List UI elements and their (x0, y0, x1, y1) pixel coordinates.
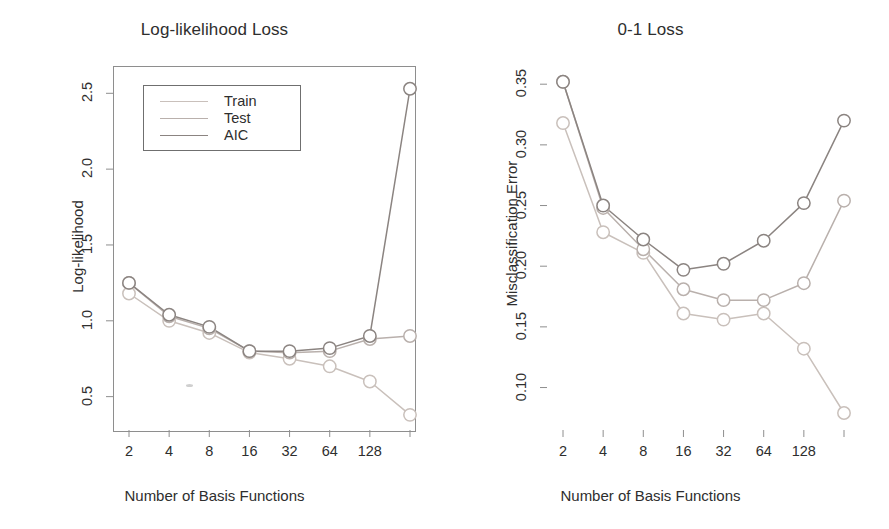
x-tick-label-right: 128 (779, 443, 829, 459)
panel-zero-one-loss: 0-1 Loss Misclassification Error Number … (444, 0, 889, 529)
figure-root: Log-likelihood Loss Log-likelihood Train… (0, 0, 889, 529)
legend-left: Train Test AIC (143, 85, 301, 151)
y-tick-label-left: 2.0 (79, 148, 95, 188)
y-tick-label-right: 0.20 (513, 245, 529, 285)
panel-log-likelihood-loss: Log-likelihood Loss Log-likelihood Train… (0, 0, 445, 529)
y-tick-label-right: 0.10 (513, 367, 529, 407)
legend-line-icon-test (160, 118, 208, 119)
y-tick-label-right: 0.15 (513, 306, 529, 346)
y-tick-label-right: 0.25 (513, 185, 529, 225)
scan-speck (186, 384, 193, 387)
legend-label-train: Train (224, 94, 257, 109)
legend-line-icon-train (160, 101, 208, 102)
legend-item-train: Train (144, 93, 300, 110)
y-tick-label-right: 0.35 (513, 63, 529, 103)
y-tick-label-left: 0.5 (79, 376, 95, 416)
x-tick-label-left: 128 (345, 443, 395, 459)
x-axis-label-right: Number of Basis Functions (428, 487, 873, 504)
legend-item-aic: AIC (144, 127, 300, 144)
y-tick-label-left: 2.5 (79, 72, 95, 112)
y-tick-label-right: 0.30 (513, 124, 529, 164)
legend-item-test: Test (144, 110, 300, 127)
legend-line-icon-aic (160, 135, 208, 136)
legend-label-aic: AIC (224, 128, 248, 143)
y-tick-label-left: 1.0 (79, 300, 95, 340)
x-axis-label-left: Number of Basis Functions (0, 487, 437, 504)
legend-label-test: Test (224, 111, 251, 126)
y-tick-label-left: 1.5 (79, 224, 95, 264)
